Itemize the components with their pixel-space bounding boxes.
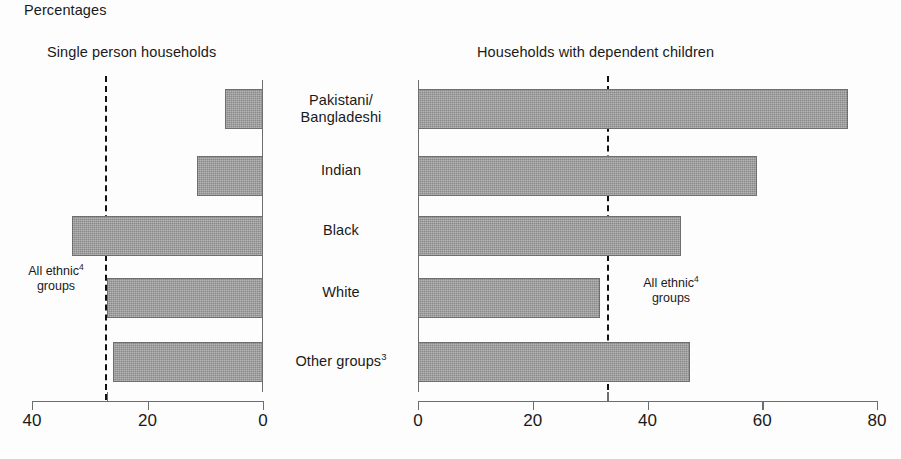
bar-left-3 — [107, 278, 263, 318]
tick-label-left-0: 0 — [258, 411, 267, 431]
category-label-1: Indian — [268, 162, 414, 179]
tick-label-right-0: 0 — [413, 411, 422, 431]
bar-right-2 — [418, 216, 681, 256]
left-annot-line1: All ethnic — [28, 264, 79, 278]
right-annot-superscript: 4 — [694, 274, 699, 284]
bar-right-0 — [418, 89, 848, 129]
category-label-3: White — [268, 284, 414, 301]
tick-right-0 — [418, 401, 419, 410]
bar-left-0 — [225, 89, 263, 129]
right-x-axis: 020406080 — [418, 392, 877, 418]
category-label-column: Pakistani/BangladeshiIndianBlackWhiteOth… — [268, 80, 414, 392]
tick-right-40 — [648, 401, 649, 410]
tick-right-80 — [877, 401, 878, 410]
bar-left-1 — [197, 156, 263, 196]
tick-left-20 — [148, 401, 149, 410]
tick-label-right-80: 80 — [868, 411, 887, 431]
bar-right-3 — [418, 278, 600, 318]
category-label-2: Black — [268, 222, 414, 239]
left-x-axis: 40200 — [32, 392, 263, 418]
tick-left-0 — [263, 401, 264, 410]
right-plot-area — [418, 80, 877, 392]
left-annot-line2: groups — [37, 279, 75, 293]
tick-right-20 — [533, 401, 534, 410]
tick-label-right-40: 40 — [638, 411, 657, 431]
right-annot-line2: groups — [652, 291, 690, 305]
right-reference-annotation: All ethnic4 groups — [620, 272, 722, 306]
tick-left-40 — [32, 401, 33, 410]
left-plot-area — [32, 80, 263, 392]
bar-right-1 — [418, 156, 757, 196]
tick-label-left-40: 40 — [23, 411, 42, 431]
category-label-4: Other groups3 — [268, 348, 414, 370]
tick-label-right-60: 60 — [753, 411, 772, 431]
units-label: Percentages — [24, 2, 107, 18]
reference-tick-left — [107, 392, 108, 401]
tick-label-right-20: 20 — [523, 411, 542, 431]
left-panel-title: Single person households — [47, 44, 216, 60]
right-panel-title: Households with dependent children — [477, 44, 714, 60]
left-annot-superscript: 4 — [79, 262, 84, 272]
category-superscript-4: 3 — [381, 351, 386, 362]
reference-tick-right — [607, 392, 608, 401]
left-reference-annotation: All ethnic4 groups — [10, 260, 102, 294]
bar-right-4 — [418, 342, 690, 382]
chart-figure: Percentages Single person households Hou… — [0, 0, 901, 459]
right-annot-line1: All ethnic — [643, 276, 694, 290]
category-label-0: Pakistani/Bangladeshi — [268, 92, 414, 126]
bar-left-2 — [72, 216, 263, 256]
tick-right-60 — [762, 401, 763, 410]
bar-left-4 — [113, 342, 263, 382]
tick-label-left-20: 20 — [138, 411, 157, 431]
